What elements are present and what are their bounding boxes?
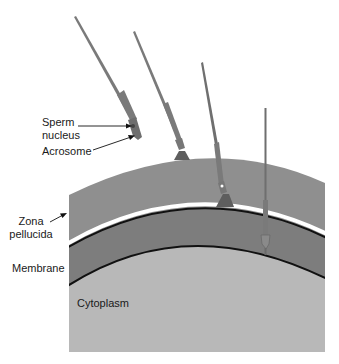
egg-cross-section bbox=[60, 120, 339, 360]
fertilization-diagram bbox=[0, 0, 339, 364]
zona-label-line2: pellucida bbox=[8, 228, 54, 241]
sperm-3-tail bbox=[201, 62, 219, 151]
sperm-3-nucleus bbox=[221, 185, 224, 188]
sperm-1-midpiece bbox=[117, 90, 137, 122]
zona-label-line1: Zona bbox=[8, 215, 54, 228]
sperm-nucleus-label: Sperm nucleus bbox=[42, 116, 80, 142]
sperm-4-stem bbox=[265, 248, 267, 255]
sperm-4-midpiece bbox=[263, 200, 268, 235]
acrosome-leader bbox=[93, 137, 131, 150]
zona-arrowhead bbox=[60, 213, 67, 218]
sperm-2-midpiece bbox=[163, 102, 182, 141]
cytoplasm-label: Cytoplasm bbox=[77, 297, 129, 310]
acrosome-arrowhead bbox=[128, 135, 135, 140]
sperm-2 bbox=[133, 31, 190, 160]
sperm-2-acrosome-cap bbox=[174, 151, 190, 160]
membrane-label: Membrane bbox=[12, 262, 65, 275]
sperm-nucleus-label-line2: nucleus bbox=[42, 129, 80, 142]
sperm-nucleus-label-line1: Sperm bbox=[42, 116, 80, 129]
sperm-1 bbox=[74, 16, 142, 140]
zona-pellucida-label: Zona pellucida bbox=[8, 215, 54, 241]
sperm-2-head bbox=[175, 138, 185, 150]
acrosome-label: Acrosome bbox=[42, 145, 92, 158]
